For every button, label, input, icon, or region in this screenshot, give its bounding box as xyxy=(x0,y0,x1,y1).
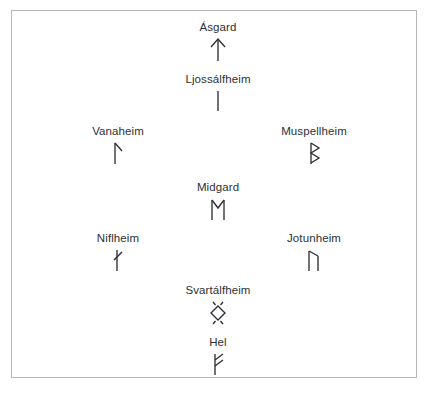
berkanan-rune xyxy=(234,141,394,165)
isa-rune xyxy=(138,89,298,113)
realm-node-vanaheim: Vanaheim xyxy=(38,125,198,165)
realm-label-midgard: Midgard xyxy=(138,181,298,194)
uruz-rune xyxy=(234,248,394,272)
laguz-rune xyxy=(38,141,198,165)
ingwaz-rune xyxy=(138,300,298,324)
realm-label-niflheim: Niflheim xyxy=(38,232,198,245)
realm-node-muspellheim: Muspellheim xyxy=(234,125,394,165)
realm-node-midgard: Midgard xyxy=(138,181,298,221)
naudiz-rune xyxy=(38,248,198,272)
fehu-rune xyxy=(138,352,298,376)
tiwaz-rune xyxy=(138,37,298,61)
realm-label-asgard: Ásgard xyxy=(138,21,298,34)
realm-label-vanaheim: Vanaheim xyxy=(38,125,198,138)
realm-label-muspellheim: Muspellheim xyxy=(234,125,394,138)
realm-label-hel: Hel xyxy=(138,336,298,349)
realm-node-ljossalfheim: Ljossálfheim xyxy=(138,73,298,113)
realm-node-asgard: Ásgard xyxy=(138,21,298,61)
realm-node-hel: Hel xyxy=(138,336,298,376)
realm-node-niflheim: Niflheim xyxy=(38,232,198,272)
realm-label-jotunheim: Jotunheim xyxy=(234,232,394,245)
realm-label-svartalfheim: Svartálfheim xyxy=(138,284,298,297)
ehwaz-rune xyxy=(138,197,298,221)
realm-node-jotunheim: Jotunheim xyxy=(234,232,394,272)
realm-node-svartalfheim: Svartálfheim xyxy=(138,284,298,324)
realms-diagram-frame: Ásgard Ljossálfheim Vanaheim Muspellheim xyxy=(11,10,417,378)
realm-label-ljossalfheim: Ljossálfheim xyxy=(138,73,298,86)
